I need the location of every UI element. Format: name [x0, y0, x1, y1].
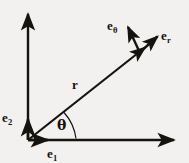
er-unit-vector-arrow: [139, 37, 158, 54]
label-theta: θ: [57, 118, 66, 132]
label-e1: e1: [47, 147, 57, 162]
r-vector-arrow: [28, 48, 145, 141]
label-e2: e2: [2, 111, 12, 126]
diagram-canvas: [0, 0, 189, 163]
vector-diagram-figure: e2 e1 r eθ er θ: [0, 0, 189, 163]
label-e-theta: eθ: [107, 19, 117, 34]
label-r: r: [72, 78, 78, 91]
etheta-unit-vector-arrow: [128, 27, 140, 53]
label-e-r: er: [161, 29, 171, 44]
